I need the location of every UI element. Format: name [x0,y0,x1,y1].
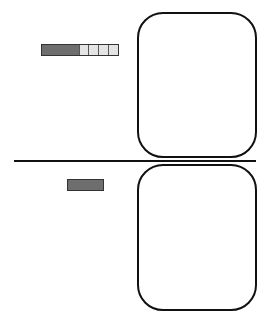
meter-filled-segment [42,45,79,55]
horizontal-divider [14,160,256,162]
meter-empty-cell [88,45,98,55]
top-meter [41,44,119,56]
meter-empty-cell [79,45,89,55]
meter-empty-cell [108,45,118,55]
top-rounded-box [137,12,257,158]
meter-empty-cell [98,45,108,55]
bottom-rounded-box [137,164,257,311]
bottom-bar [67,179,104,191]
